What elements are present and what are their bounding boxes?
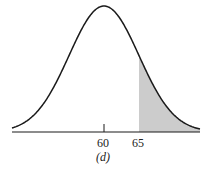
tick-label-65: 65 (132, 136, 144, 151)
figure-caption: (d) (96, 150, 110, 165)
normal-curve (12, 6, 200, 129)
tick-label-60: 60 (97, 136, 109, 151)
shaded-tail-region (139, 56, 200, 132)
